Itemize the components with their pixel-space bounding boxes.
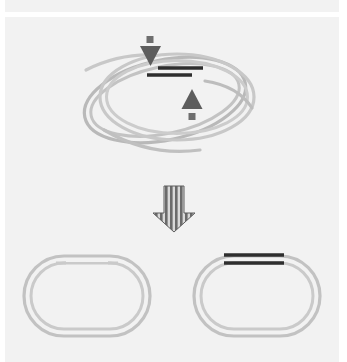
product-right [194, 255, 320, 336]
arrow-up-head [182, 89, 203, 109]
top-scene-catenane [76, 36, 254, 156]
product-left-inner-strand [31, 263, 143, 329]
loop-a-inner-strand [107, 61, 248, 134]
product-right-inner-strand [201, 263, 313, 329]
product-left-inner-clip [31, 263, 143, 329]
product-right-outer-strand [194, 256, 320, 336]
product-left [24, 256, 150, 336]
arrow-up-square-tail [189, 113, 196, 120]
bottom-scene-products [24, 255, 320, 336]
figure-root: Schematic of a DNA catenane resolving in… [0, 0, 347, 362]
diagram-canvas [0, 0, 347, 362]
product-left-outer-strand [24, 256, 150, 336]
arrow-up-small [182, 89, 203, 120]
transition-arrow [153, 186, 195, 232]
arrow-down-square-tail [147, 36, 154, 43]
striped-down-arrow-shape [153, 186, 195, 232]
